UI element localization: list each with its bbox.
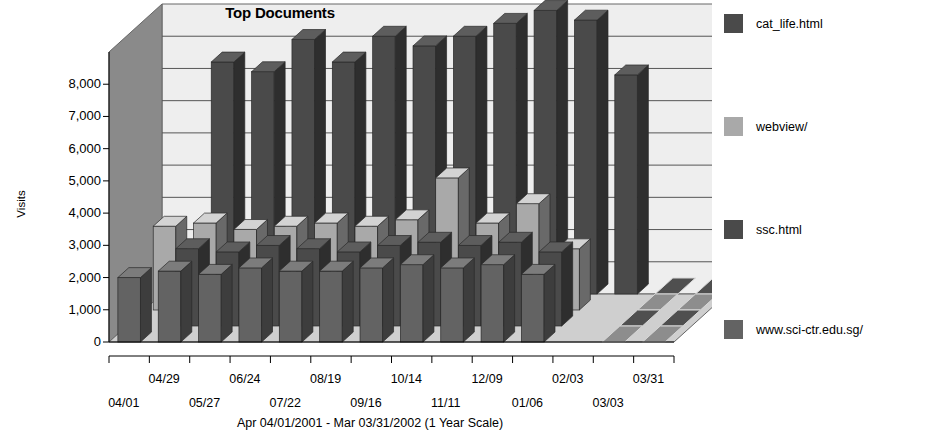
y-tick-label: 4,000 xyxy=(45,206,101,219)
legend-label-1: webview/ xyxy=(756,120,807,134)
x-tick-label: 01/06 xyxy=(512,396,543,410)
legend-swatch-icon-1 xyxy=(724,117,743,136)
x-tick-label: 04/29 xyxy=(149,372,180,386)
y-tick-label: 3,000 xyxy=(45,238,101,251)
x-tick-label: 10/14 xyxy=(391,372,422,386)
x-tick-label: 09/16 xyxy=(350,396,381,410)
chart-page: Top Documents Visits 01,0002,0003,0004,0… xyxy=(0,0,937,444)
x-tick-label: 07/22 xyxy=(270,396,301,410)
legend-swatch-icon-2 xyxy=(724,220,743,239)
y-tick-label: 5,000 xyxy=(45,174,101,187)
legend-item-2[interactable]: ssc.html xyxy=(724,220,802,239)
chart-legend: cat_life.html webview/ ssc.html www.sci-… xyxy=(716,0,937,360)
y-tick-label: 7,000 xyxy=(45,109,101,122)
chart-canvas: Top Documents Visits 01,0002,0003,0004,0… xyxy=(0,0,712,444)
x-tick-label: 03/31 xyxy=(633,372,664,386)
x-tick-label: 05/27 xyxy=(189,396,220,410)
legend-label-2: ssc.html xyxy=(756,223,802,237)
x-tick-label: 08/19 xyxy=(310,372,341,386)
legend-swatch-icon-3 xyxy=(724,320,743,339)
y-tick-label: 6,000 xyxy=(45,142,101,155)
x-tick-label: 11/11 xyxy=(431,396,460,410)
legend-label-0: cat_life.html xyxy=(756,17,823,31)
y-tick-label: 8,000 xyxy=(45,77,101,90)
legend-item-3[interactable]: www.sci-ctr.edu.sg/ xyxy=(724,320,863,339)
x-tick-label: 06/24 xyxy=(229,372,260,386)
legend-swatch-icon-0 xyxy=(724,14,743,33)
legend-item-1[interactable]: webview/ xyxy=(724,117,807,136)
y-tick-label: 1,000 xyxy=(45,303,101,316)
legend-label-3: www.sci-ctr.edu.sg/ xyxy=(756,323,863,337)
x-axis-caption: Apr 04/01/2001 - Mar 03/31/2002 (1 Year … xyxy=(90,416,650,430)
x-tick-label: 02/03 xyxy=(552,372,583,386)
plot-svg xyxy=(0,0,712,444)
x-tick-label: 04/01 xyxy=(108,396,139,410)
y-tick-label: 0 xyxy=(45,335,101,348)
x-tick-label: 12/09 xyxy=(471,372,502,386)
legend-item-0[interactable]: cat_life.html xyxy=(724,14,823,33)
y-tick-label: 2,000 xyxy=(45,271,101,284)
x-tick-label: 03/03 xyxy=(592,396,623,410)
chart-title: Top Documents xyxy=(0,4,560,21)
y-axis-title: Visits xyxy=(15,169,27,239)
